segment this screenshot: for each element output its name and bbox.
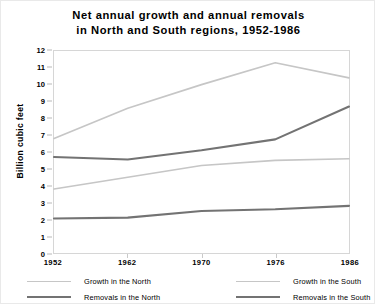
chart-figure: Net annual growth and annual removals in…: [0, 0, 375, 304]
legend-label: Growth in the South: [293, 277, 361, 286]
y-tick-mark: [47, 84, 52, 85]
y-tick-mark: [47, 237, 52, 238]
y-tick-label: 11: [23, 63, 45, 72]
y-tick-label: 4: [23, 182, 45, 191]
y-tick-label: 9: [23, 97, 45, 106]
legend-swatch-line-icon: [27, 281, 71, 282]
legend-item[interactable]: Growth in the North: [27, 275, 151, 287]
chart-legend: Growth in the NorthGrowth in the SouthRe…: [1, 273, 375, 303]
legend-swatch-line-icon: [27, 296, 71, 298]
y-tick-label: 7: [23, 131, 45, 140]
y-tick-label: 8: [23, 114, 45, 123]
x-tick-mark: [276, 254, 277, 258]
y-tick-label: 5: [23, 165, 45, 174]
y-tick-label: 2: [23, 216, 45, 225]
x-tick-label: 1986: [320, 258, 375, 267]
series-line: [54, 206, 349, 219]
y-tick-mark: [47, 203, 52, 204]
y-tick-mark: [47, 135, 52, 136]
y-tick-mark: [47, 118, 52, 119]
y-tick-label: 3: [23, 199, 45, 208]
x-tick-label: 1962: [97, 258, 157, 267]
legend-swatch-line-icon: [236, 296, 280, 298]
y-tick-mark: [47, 169, 52, 170]
y-tick-label: 1: [23, 233, 45, 242]
y-tick-mark: [47, 254, 52, 255]
series-lines: [54, 51, 349, 253]
y-tick-mark: [47, 220, 52, 221]
y-tick-mark: [47, 101, 52, 102]
legend-swatch-line-icon: [236, 281, 280, 282]
y-tick-label: 10: [23, 80, 45, 89]
y-tick-mark: [47, 186, 52, 187]
y-tick-label: 6: [23, 148, 45, 157]
plot-area: [53, 50, 350, 254]
legend-label: Growth in the North: [84, 277, 151, 286]
y-tick-mark: [47, 50, 52, 51]
legend-label: Removals in the North: [84, 293, 160, 302]
legend-item[interactable]: Removals in the South: [236, 291, 371, 303]
y-tick-mark: [47, 67, 52, 68]
x-tick-mark: [202, 254, 203, 258]
legend-item[interactable]: Growth in the South: [236, 275, 361, 287]
x-tick-mark: [127, 254, 128, 258]
series-line: [54, 159, 349, 189]
x-tick-label: 1952: [23, 258, 83, 267]
legend-item[interactable]: Removals in the North: [27, 291, 160, 303]
chart-title: Net annual growth and annual removals in…: [1, 8, 375, 37]
x-tick-label: 1970: [172, 258, 232, 267]
series-line: [54, 107, 349, 160]
x-tick-label: 1976: [246, 258, 306, 267]
y-tick-label: 12: [23, 46, 45, 55]
legend-label: Removals in the South: [293, 293, 371, 302]
y-tick-mark: [47, 152, 52, 153]
